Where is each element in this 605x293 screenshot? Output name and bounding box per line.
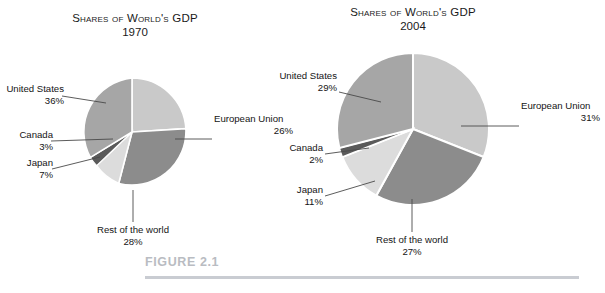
- label-european-union-2004: European Union 31%: [521, 100, 605, 123]
- label-japan-2004-pct: 11%: [271, 196, 323, 208]
- label-canada-2004: Canada 2%: [271, 142, 323, 165]
- label-rest-of-the-world-2004-name: Rest of the world: [352, 234, 472, 246]
- label-japan-2004: Japan 11%: [271, 184, 323, 207]
- label-united-states-1970-name: United States: [0, 83, 64, 95]
- label-united-states-1970: United States 36%: [0, 83, 64, 106]
- label-japan-1970-name: Japan: [0, 157, 53, 169]
- figure-caption: FIGURE 2.1: [145, 255, 219, 269]
- label-canada-1970: Canada 3%: [0, 129, 53, 152]
- chart-title-2004-main: Shares of World's GDP: [318, 6, 508, 19]
- pie-chart-2004[interactable]: [337, 53, 489, 205]
- label-canada-1970-name: Canada: [0, 129, 53, 141]
- label-rest-of-the-world-1970-pct: 28%: [73, 236, 193, 248]
- label-canada-2004-name: Canada: [271, 142, 323, 154]
- figure-rule: [145, 276, 579, 279]
- label-european-union-1970: European Union 26%: [214, 113, 304, 136]
- chart-title-2004: Shares of World's GDP 2004: [318, 6, 508, 33]
- label-japan-2004-name: Japan: [271, 184, 323, 196]
- label-rest-of-the-world-1970: Rest of the world 28%: [73, 224, 193, 247]
- chart-title-1970: Shares of World's GDP 1970: [40, 12, 230, 39]
- label-united-states-1970-pct: 36%: [0, 95, 64, 107]
- label-canada-2004-pct: 2%: [271, 154, 323, 166]
- pie-slice-european-union-1970[interactable]: [132, 78, 186, 132]
- label-canada-1970-pct: 3%: [0, 141, 53, 153]
- label-united-states-2004: United States 29%: [271, 70, 337, 93]
- label-rest-of-the-world-2004: Rest of the world 27%: [352, 234, 472, 257]
- label-united-states-2004-name: United States: [271, 70, 337, 82]
- label-united-states-2004-pct: 29%: [271, 82, 337, 94]
- label-european-union-1970-name: European Union: [214, 113, 304, 125]
- chart-title-1970-main: Shares of World's GDP: [40, 12, 230, 25]
- pie-chart-1970[interactable]: [78, 78, 186, 186]
- label-european-union-2004-name: European Union: [521, 100, 605, 112]
- pie-svg-1970: [78, 78, 186, 186]
- label-european-union-1970-pct: 26%: [214, 125, 293, 137]
- pie-svg-2004: [337, 53, 489, 205]
- label-european-union-2004-pct: 31%: [521, 112, 600, 124]
- chart-title-2004-year: 2004: [318, 20, 508, 33]
- label-rest-of-the-world-1970-name: Rest of the world: [73, 224, 193, 236]
- label-rest-of-the-world-2004-pct: 27%: [352, 246, 472, 258]
- label-japan-1970: Japan 7%: [0, 157, 53, 180]
- label-japan-1970-pct: 7%: [0, 169, 53, 181]
- chart-title-1970-year: 1970: [40, 26, 230, 39]
